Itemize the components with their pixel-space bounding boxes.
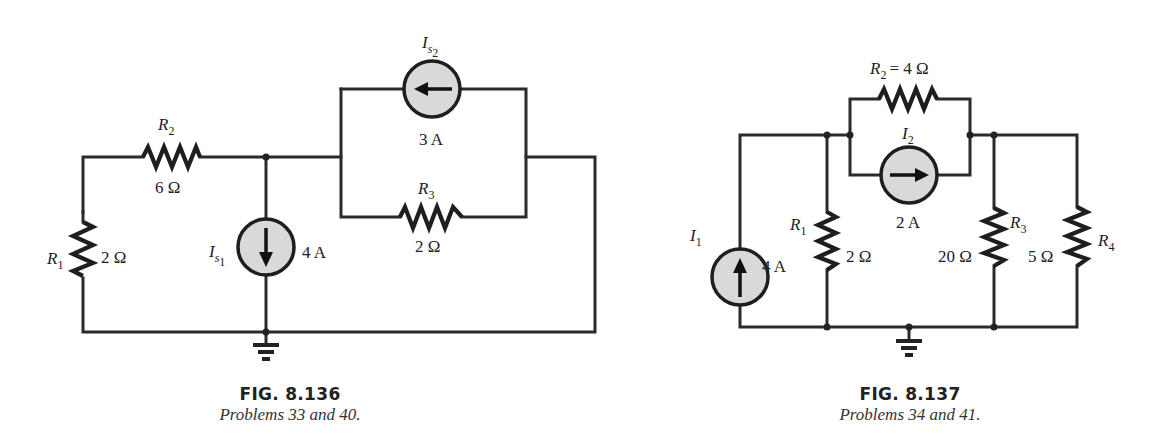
label-is1-value: 4 A	[302, 243, 327, 262]
resistor-r2	[143, 147, 200, 167]
figure-number: FIG. 8.137	[810, 384, 1010, 404]
junction-node	[967, 132, 974, 139]
label-r3-value: 2 Ω	[415, 237, 440, 256]
current-source-i1	[712, 249, 768, 305]
junction-node	[991, 132, 998, 139]
resistor-r1	[73, 222, 93, 276]
label-r1-name: R1	[789, 215, 806, 238]
label-i2-value: 2 A	[896, 213, 921, 232]
junction-node	[991, 324, 998, 331]
caption-fig-8-136: FIG. 8.136 Problems 33 and 40.	[190, 384, 390, 425]
label-r1-value: 2 Ω	[101, 248, 126, 267]
resistor-r1	[818, 212, 836, 270]
label-is2-name: Is2	[421, 33, 438, 60]
label-r2-value: 6 Ω	[155, 178, 180, 197]
current-source-i2	[881, 147, 937, 203]
junction-node	[906, 324, 913, 331]
label-i2-name: I2	[901, 124, 914, 147]
figure-number: FIG. 8.136	[190, 384, 390, 404]
caption-fig-8-137: FIG. 8.137 Problems 34 and 41.	[810, 384, 1010, 425]
ground-icon	[253, 343, 279, 361]
label-r3-name: R3	[417, 179, 434, 202]
label-r4-name: R4	[1097, 231, 1114, 254]
label-i1-name: I1	[689, 226, 702, 249]
junction-node	[824, 132, 831, 139]
resistor-r3	[984, 208, 1004, 266]
junction-node	[263, 329, 270, 336]
resistor-r2	[879, 89, 937, 109]
label-r2: R2= 4 Ω	[869, 59, 929, 82]
figure-subtitle: Problems 34 and 41.	[810, 405, 1010, 425]
label-r2-name: R2	[157, 115, 174, 138]
figure-8-136-circuit: R2 6 Ω R1 2 Ω R3 2 Ω Is2 3 A Is1 4 A	[46, 33, 595, 361]
label-r3-value: 20 Ω	[938, 247, 972, 266]
label-r1-value: 2 Ω	[846, 247, 871, 266]
junction-node	[263, 154, 270, 161]
resistor-r3	[400, 207, 462, 228]
current-source-is2	[404, 61, 460, 117]
label-r3-name: R3	[1009, 213, 1026, 236]
ground-icon	[896, 339, 922, 357]
label-is1-name: Is1	[208, 242, 225, 269]
junction-node	[847, 132, 854, 139]
junction-node	[824, 324, 831, 331]
figure-subtitle: Problems 33 and 40.	[190, 405, 390, 425]
label-i1-value: 4 A	[762, 257, 787, 276]
label-is2-value: 3 A	[419, 130, 444, 149]
figure-8-137-circuit: R2= 4 Ω I2 2 A I1 4 A R1 2 Ω R3 20 Ω R4 …	[689, 59, 1114, 357]
label-r4-value: 5 Ω	[1028, 247, 1053, 266]
resistor-r4	[1067, 207, 1087, 266]
current-source-is1	[238, 219, 294, 275]
label-r1-name: R1	[46, 249, 63, 272]
